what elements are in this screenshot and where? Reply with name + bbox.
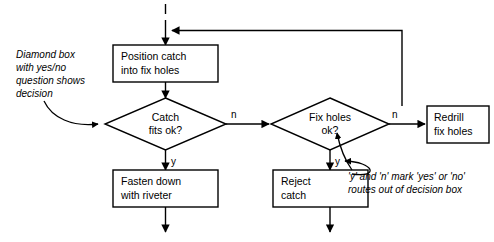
route-label-catch-yes: y [171, 156, 176, 167]
annotation-diamond-note-line-2: with yes/no [16, 62, 66, 73]
annotation-diamond-note-line-3: question shows [16, 75, 85, 86]
process-box-fasten-down-line-1: Fasten down [121, 175, 181, 187]
decision-catch-fits-line-2: fits ok? [149, 124, 182, 136]
annotation-diamond-note-line-1: Diamond box [16, 49, 76, 60]
route-label-catch-no: n [231, 109, 237, 120]
flowchart-canvas: Position catch into fix holes Catch fits… [0, 0, 494, 242]
process-box-fasten-down-line-2: with riveter [120, 189, 172, 201]
annotation-diamond-note-line-4: decision [16, 88, 53, 99]
annotation-yn-note-line-2: routes out of decision box [348, 184, 463, 195]
process-box-position-catch-line-1: Position catch [121, 50, 187, 62]
decision-fix-holes-line-1: Fix holes [309, 111, 351, 123]
leader-arrow-diamond-note [44, 101, 98, 125]
decision-fix-holes-line-2: ok? [322, 124, 339, 136]
flowchart-diagram: Position catch into fix holes Catch fits… [0, 0, 494, 242]
route-label-fix-yes: y [335, 156, 340, 167]
process-box-reject-catch-line-2: catch [281, 189, 306, 201]
process-box-redrill-line-2: fix holes [434, 125, 473, 137]
annotation-yn-note-line-1: 'y' and 'n' mark 'yes' or 'no' [348, 171, 466, 182]
decision-catch-fits-line-1: Catch [152, 111, 180, 123]
route-label-fix-no: n [392, 109, 398, 120]
process-box-reject-catch-line-1: Reject [281, 175, 311, 187]
process-box-position-catch-line-2: into fix holes [121, 64, 179, 76]
process-box-redrill-line-1: Redrill [434, 111, 464, 123]
